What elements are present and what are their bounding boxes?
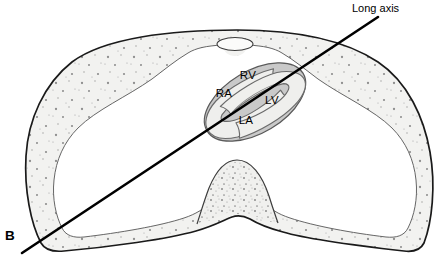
panel-letter-label: B: [5, 228, 15, 243]
thorax-cross-section-diagram: RV RA LV LA Long axis B: [0, 0, 446, 257]
chamber-label-la: LA: [239, 114, 254, 126]
chamber-label-ra: RA: [216, 87, 233, 99]
long-axis-label: Long axis: [352, 2, 400, 14]
figure-panel: RV RA LV LA Long axis B: [0, 0, 446, 257]
chamber-label-rv: RV: [240, 69, 256, 81]
sternum-ellipse: [217, 38, 253, 51]
chamber-label-lv: LV: [265, 94, 279, 106]
